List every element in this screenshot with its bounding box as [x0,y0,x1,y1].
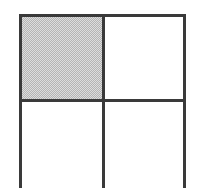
empty-cell-fill [19,99,102,188]
middle-vertical-divider [102,14,105,188]
grid-cell-row0-col0[interactable] [19,14,102,99]
shaded-cell-fill [19,14,102,99]
grid-cell-row0-col1[interactable] [102,14,186,99]
diagram-canvas [0,0,198,188]
left-frame-line [19,14,22,188]
two-by-two-grid [19,14,189,188]
empty-cell-fill [102,14,186,99]
empty-cell-fill [102,99,186,188]
grid-cell-row1-col1[interactable] [102,99,186,188]
right-frame-line [183,14,186,188]
grid-cell-row1-col0[interactable] [19,99,102,188]
